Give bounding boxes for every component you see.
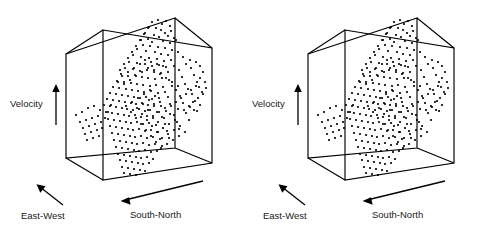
data-point xyxy=(396,78,398,80)
data-point xyxy=(400,64,402,66)
data-point xyxy=(152,115,154,117)
data-point xyxy=(382,157,384,159)
data-point xyxy=(380,108,382,110)
velocity-axis-left: Velocity xyxy=(10,84,60,125)
panel-right-canvas: Velocity East-West South-North xyxy=(242,0,483,230)
data-point xyxy=(153,71,155,73)
data-point xyxy=(403,77,405,79)
data-point xyxy=(390,57,392,59)
data-point xyxy=(164,32,166,34)
data-point xyxy=(149,45,151,47)
data-point xyxy=(111,132,113,134)
data-point xyxy=(397,27,399,29)
data-point xyxy=(111,112,113,114)
data-point xyxy=(381,70,383,72)
data-point xyxy=(136,143,138,145)
data-point xyxy=(183,109,185,111)
data-point xyxy=(408,143,410,145)
data-point xyxy=(396,95,398,97)
data-point xyxy=(193,74,195,76)
data-point xyxy=(100,121,102,123)
data-point xyxy=(391,85,393,87)
data-point xyxy=(379,97,381,99)
data-point xyxy=(447,87,449,89)
data-point xyxy=(431,59,433,61)
data-point xyxy=(131,89,133,91)
data-point xyxy=(144,110,146,112)
data-point xyxy=(395,69,397,71)
data-point xyxy=(130,122,132,124)
data-point xyxy=(441,65,443,67)
data-point xyxy=(371,155,373,157)
south-north-axis-label: South-North xyxy=(130,209,181,220)
data-point xyxy=(377,103,379,105)
data-point xyxy=(402,29,404,31)
data-point xyxy=(173,129,175,131)
data-point xyxy=(196,81,198,83)
data-point xyxy=(386,59,388,61)
data-point xyxy=(353,132,355,134)
data-point xyxy=(150,135,152,137)
data-point xyxy=(97,115,99,117)
data-point xyxy=(433,93,435,95)
data-point xyxy=(387,96,389,98)
data-point xyxy=(173,114,175,116)
data-point xyxy=(335,105,337,107)
data-point xyxy=(340,135,342,137)
velocity-arrow-head xyxy=(294,84,302,92)
south-north-axis-label: South-North xyxy=(372,209,423,220)
velocity-axis-right: Velocity xyxy=(252,84,302,125)
data-point xyxy=(342,121,344,123)
data-point xyxy=(392,135,394,137)
data-point xyxy=(404,40,406,42)
data-point xyxy=(321,121,323,123)
data-point xyxy=(144,149,146,151)
data-point xyxy=(148,162,150,164)
data-point xyxy=(112,99,114,101)
data-point xyxy=(354,99,356,101)
south-north-arrow-head xyxy=(121,197,131,205)
data-point xyxy=(415,37,417,39)
data-point xyxy=(127,57,129,59)
data-point xyxy=(99,109,101,111)
box-edge-bottom-left xyxy=(66,158,103,180)
data-point xyxy=(371,173,373,175)
data-point xyxy=(410,123,412,125)
data-point xyxy=(180,97,182,99)
data-point xyxy=(361,140,363,142)
data-point xyxy=(147,67,149,69)
data-point xyxy=(402,147,404,149)
data-point xyxy=(155,84,157,86)
data-point xyxy=(118,100,120,102)
data-point xyxy=(195,61,197,63)
data-point xyxy=(391,109,393,111)
data-point xyxy=(128,61,130,63)
data-point xyxy=(370,61,372,63)
data-point xyxy=(365,134,367,136)
data-point xyxy=(424,102,426,104)
data-point xyxy=(372,122,374,124)
data-point xyxy=(132,109,134,111)
data-point xyxy=(204,81,206,83)
data-point xyxy=(385,33,387,35)
data-point xyxy=(188,105,190,107)
data-point xyxy=(142,103,144,105)
data-point xyxy=(145,96,147,98)
data-point xyxy=(125,105,127,107)
south-north-axis-right: South-North xyxy=(363,181,446,220)
data-point xyxy=(387,129,389,131)
box-front-face xyxy=(103,30,212,180)
data-point xyxy=(123,154,125,156)
data-point xyxy=(378,121,380,123)
data-point xyxy=(143,93,145,95)
data-point xyxy=(194,100,196,102)
data-point xyxy=(415,65,417,67)
data-point xyxy=(113,119,115,121)
data-point xyxy=(390,162,392,164)
data-point xyxy=(426,83,428,85)
data-point xyxy=(147,38,149,40)
data-point xyxy=(123,172,125,174)
data-point xyxy=(170,59,172,61)
data-point xyxy=(159,101,161,103)
data-point xyxy=(205,87,207,89)
